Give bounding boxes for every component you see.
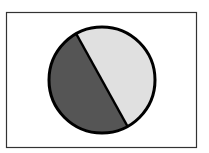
diagram-canvas — [0, 0, 209, 153]
